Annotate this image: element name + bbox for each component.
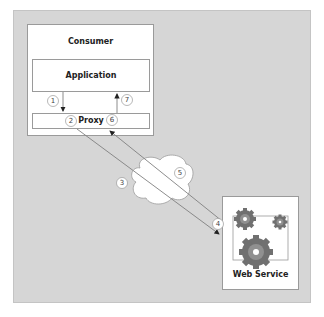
gear-icon [239, 235, 273, 269]
step-5: 5 [175, 168, 186, 179]
svg-text:6: 6 [110, 116, 115, 124]
svg-text:5: 5 [178, 169, 182, 177]
svg-text:1: 1 [51, 97, 55, 105]
response-line [110, 131, 222, 221]
svg-text:7: 7 [125, 96, 129, 104]
cloud-icon [132, 155, 193, 204]
svg-text:3: 3 [120, 179, 124, 187]
gear-icon [234, 208, 256, 230]
step-3: 3 [117, 178, 128, 189]
gear-icon [273, 215, 288, 230]
step-7: 7 [122, 95, 133, 106]
svg-text:4: 4 [216, 220, 221, 228]
svg-text:2: 2 [69, 117, 73, 125]
step-6: 6 [107, 115, 118, 126]
step-4: 4 [213, 219, 224, 230]
diagram-overlay: 1 2 3 4 5 6 7 [0, 0, 324, 317]
step-2: 2 [66, 116, 77, 127]
request-line [77, 129, 219, 234]
step-1: 1 [48, 96, 59, 107]
